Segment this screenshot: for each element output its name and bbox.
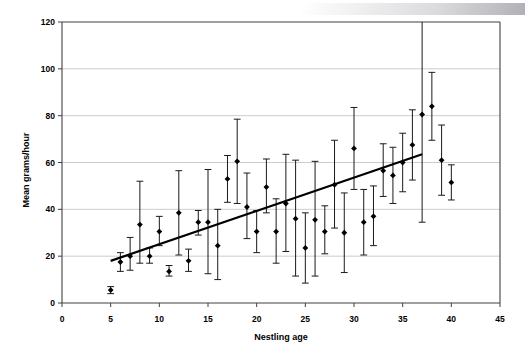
y-tick-label-20: 20: [46, 251, 56, 261]
x-axis-title: Nestling age: [254, 332, 308, 342]
x-tick-label-0: 0: [60, 314, 65, 324]
scatter-plot-with-error-bars: 020406080100120 051015202530354045 Nestl…: [0, 0, 525, 351]
x-tick-label-40: 40: [447, 314, 457, 324]
y-tick-label-100: 100: [41, 64, 55, 74]
x-tick-label-5: 5: [108, 314, 113, 324]
x-tick-label-20: 20: [252, 314, 262, 324]
x-tick-label-30: 30: [349, 314, 359, 324]
chart-background: [0, 0, 525, 351]
x-tick-label-25: 25: [301, 314, 311, 324]
y-tick-label-40: 40: [46, 204, 56, 214]
y-tick-label-0: 0: [50, 298, 55, 308]
y-axis-title: Mean grams/hour: [21, 132, 31, 208]
x-tick-label-10: 10: [155, 314, 165, 324]
x-tick-label-45: 45: [495, 314, 505, 324]
y-tick-label-60: 60: [46, 158, 56, 168]
y-tick-label-80: 80: [46, 111, 56, 121]
chart-figure: 020406080100120 051015202530354045 Nestl…: [0, 0, 525, 351]
x-tick-label-15: 15: [203, 314, 213, 324]
y-tick-label-120: 120: [41, 17, 55, 27]
x-tick-label-35: 35: [398, 314, 408, 324]
